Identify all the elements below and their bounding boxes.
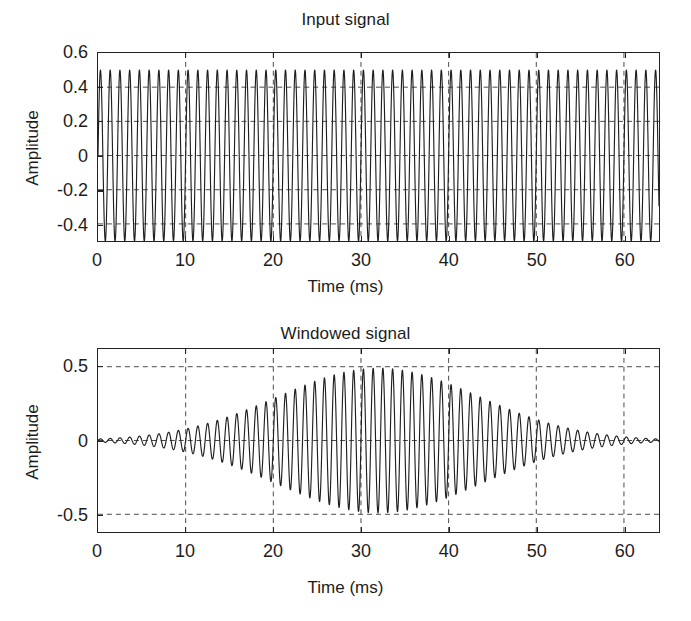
- x-tick-mark-top: [361, 348, 362, 354]
- x-tick-mark: [97, 236, 98, 242]
- y-tick-label: -0.5: [0, 506, 88, 524]
- y-tick-mark: [97, 225, 103, 226]
- x-tick-mark: [449, 527, 450, 533]
- y-tick-label: 0: [0, 147, 88, 165]
- x-tick-mark: [449, 236, 450, 242]
- x-tick-mark-top: [273, 348, 274, 354]
- x-tick-label: 20: [243, 542, 303, 560]
- y-tick-label: 0.2: [0, 112, 88, 130]
- x-tick-mark-top: [449, 348, 450, 354]
- plot-canvas-windowed: [98, 349, 659, 532]
- x-tick-label: 40: [419, 542, 479, 560]
- x-tick-label: 0: [67, 542, 127, 560]
- y-tick-mark: [97, 121, 103, 122]
- y-tick-mark: [97, 366, 103, 367]
- x-tick-label: 50: [507, 542, 567, 560]
- x-tick-mark-top: [361, 52, 362, 58]
- x-tick-mark: [97, 527, 98, 533]
- x-tick-label: 50: [507, 251, 567, 269]
- y-tick-label: 0.4: [0, 78, 88, 96]
- y-tick-label: 0.6: [0, 43, 88, 61]
- plot-area-windowed: [97, 348, 660, 533]
- x-tick-mark-top: [185, 52, 186, 58]
- y-tick-mark: [97, 87, 103, 88]
- y-tick-mark: [97, 190, 103, 191]
- y-tick-mark: [97, 156, 103, 157]
- x-tick-mark-top: [273, 52, 274, 58]
- x-tick-mark-top: [537, 52, 538, 58]
- x-tick-mark: [361, 236, 362, 242]
- x-tick-mark: [625, 236, 626, 242]
- panel-windowed-signal: Windowed signal Amplitude 0.50-0.5 01020…: [0, 310, 691, 621]
- x-axis-title-input: Time (ms): [0, 277, 691, 297]
- x-tick-label: 30: [331, 542, 391, 560]
- plot-area-input: [97, 52, 660, 242]
- y-tick-mark: [97, 441, 103, 442]
- x-tick-mark: [361, 527, 362, 533]
- y-tick-mark: [97, 515, 103, 516]
- x-tick-mark-top: [97, 52, 98, 58]
- x-tick-mark: [273, 527, 274, 533]
- x-tick-mark: [537, 236, 538, 242]
- x-axis-title-windowed: Time (ms): [0, 578, 691, 598]
- x-tick-mark-top: [449, 52, 450, 58]
- x-tick-mark: [625, 527, 626, 533]
- y-tick-label: -0.4: [0, 216, 88, 234]
- x-tick-label: 20: [243, 251, 303, 269]
- x-tick-label: 10: [155, 251, 215, 269]
- plot-canvas-input: [98, 53, 659, 241]
- x-tick-label: 60: [595, 251, 655, 269]
- panel-title-windowed: Windowed signal: [0, 324, 691, 344]
- panel-input-signal: Input signal Amplitude 0.60.40.20-0.2-0.…: [0, 0, 691, 310]
- x-tick-mark-top: [97, 348, 98, 354]
- x-tick-label: 40: [419, 251, 479, 269]
- x-tick-mark: [185, 236, 186, 242]
- x-tick-mark-top: [185, 348, 186, 354]
- x-tick-label: 30: [331, 251, 391, 269]
- x-tick-mark-top: [537, 348, 538, 354]
- signal-figure: Input signal Amplitude 0.60.40.20-0.2-0.…: [0, 0, 691, 621]
- x-tick-mark-top: [625, 52, 626, 58]
- x-tick-mark: [185, 527, 186, 533]
- y-tick-label: 0: [0, 432, 88, 450]
- x-tick-label: 0: [67, 251, 127, 269]
- x-tick-mark: [273, 236, 274, 242]
- x-tick-mark-top: [625, 348, 626, 354]
- x-tick-label: 10: [155, 542, 215, 560]
- y-tick-label: -0.2: [0, 181, 88, 199]
- panel-title-input: Input signal: [0, 10, 691, 30]
- x-tick-mark: [537, 527, 538, 533]
- x-tick-label: 60: [595, 542, 655, 560]
- y-tick-label: 0.5: [0, 357, 88, 375]
